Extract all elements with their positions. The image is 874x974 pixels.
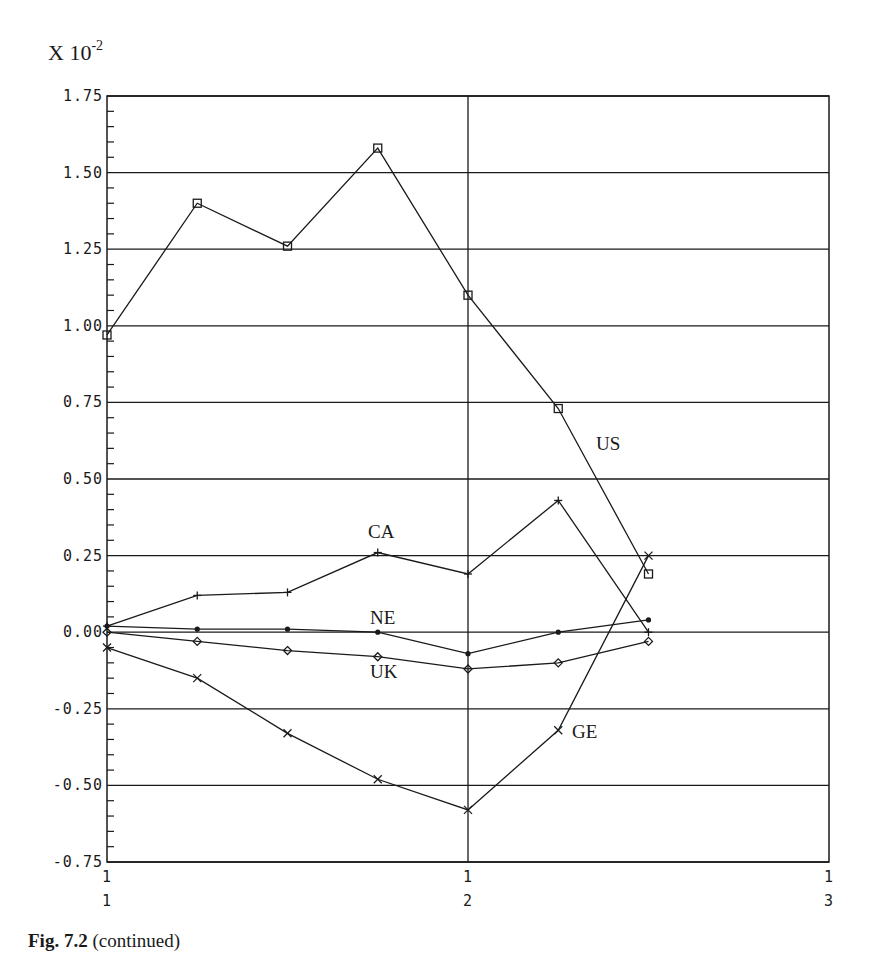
y-tick-label: 0.25	[63, 547, 103, 565]
axes: 1.751.501.251.000.750.500.250.00-0.25-0.…	[53, 87, 834, 910]
series-ge	[103, 552, 653, 814]
line-chart: 1.751.501.251.000.750.500.250.00-0.25-0.…	[0, 0, 874, 974]
y-tick-label: -0.50	[53, 776, 103, 794]
series-label-uk: UK	[370, 661, 398, 682]
x-tick-label-top: 1	[463, 868, 473, 886]
series-label-ge: GE	[572, 721, 597, 742]
y-tick-label: 1.00	[63, 317, 103, 335]
y-tick-label: 1.75	[63, 87, 103, 105]
figure-caption: Fig. 7.2 (continued)	[28, 930, 180, 952]
y-tick-label: 1.50	[63, 164, 103, 182]
y-tick-label: 0.75	[63, 393, 103, 411]
series-label-ne: NE	[370, 607, 395, 628]
y-tick-label: 1.25	[63, 240, 103, 258]
x-tick-label-top: 1	[102, 868, 112, 886]
x-tick-label-bottom: 2	[463, 892, 473, 910]
x-tick-label-bottom: 1	[102, 892, 112, 910]
series-line	[107, 148, 649, 574]
series-label-ca: CA	[368, 521, 395, 542]
dot-marker-icon	[465, 651, 470, 656]
dot-marker-icon	[285, 627, 290, 632]
dot-marker-icon	[556, 630, 561, 635]
series-label-us: US	[596, 433, 620, 454]
y-tick-label: 0.00	[63, 623, 103, 641]
x-tick-label-top: 1	[824, 868, 834, 886]
y-tick-label: -0.75	[53, 853, 103, 871]
dot-marker-icon	[646, 617, 651, 622]
y-tick-label: 0.50	[63, 470, 103, 488]
y-tick-label: -0.25	[53, 700, 103, 718]
series-us	[103, 144, 653, 578]
series-line	[107, 556, 649, 810]
x-tick-label-bottom: 3	[824, 892, 834, 910]
gridlines	[107, 96, 829, 862]
dot-marker-icon	[375, 630, 380, 635]
dot-marker-icon	[195, 627, 200, 632]
